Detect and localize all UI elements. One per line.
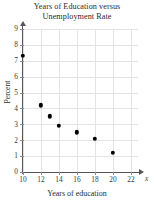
chart-figure: Years of Education versus Unemployment R… [0, 0, 154, 203]
gridline-horizontal [23, 93, 138, 94]
x-axis-tick-label: 16 [69, 176, 85, 183]
x-axis-arrow-icon [139, 169, 144, 175]
y-axis-tick-label: 3 [4, 121, 18, 128]
y-axis-tick-label: 9 [4, 25, 18, 32]
y-axis-tick [20, 61, 24, 62]
y-axis-line [22, 25, 23, 174]
gridline-horizontal [23, 156, 138, 157]
chart-title: Years of Education versus Unemployment R… [0, 2, 154, 22]
gridline-horizontal [23, 140, 138, 141]
y-axis-tick [20, 29, 24, 30]
gridline-vertical [131, 29, 132, 172]
y-axis-tick-label: 0 [4, 168, 18, 175]
gridline-vertical [77, 29, 78, 172]
y-axis-title: Percent [4, 63, 12, 121]
x-axis-tick-label: 14 [51, 176, 67, 183]
gridline-horizontal [23, 29, 138, 30]
plot-area [23, 29, 131, 172]
y-axis-tick-label: 1 [4, 152, 18, 159]
y-axis-tick [20, 108, 24, 109]
y-axis-tick-label: 2 [4, 137, 18, 144]
gridline-horizontal [23, 108, 138, 109]
x-axis-tick-label: 18 [87, 176, 103, 183]
x-axis-title: Years of education [0, 189, 154, 198]
gridline-horizontal [23, 77, 138, 78]
y-axis-tick-label: 8 [4, 41, 18, 48]
gridline-horizontal [23, 61, 138, 62]
y-axis-tick [20, 140, 24, 141]
gridline-vertical [59, 29, 60, 172]
y-axis-tick [20, 124, 24, 125]
x-axis-tick-label: 10 [15, 176, 31, 183]
x-axis-tick-label: 20 [105, 176, 121, 183]
y-axis-tick [20, 93, 24, 94]
gridline-vertical [41, 29, 42, 172]
x-axis-tick-label: 12 [33, 176, 49, 183]
y-axis-tick [20, 45, 24, 46]
gridline-vertical [95, 29, 96, 172]
gridline-horizontal [23, 45, 138, 46]
y-axis-tick [20, 156, 24, 157]
y-axis-arrow-icon [20, 21, 26, 26]
x-axis-tick-label: 22 [123, 176, 139, 183]
y-axis-tick [20, 77, 24, 78]
x-axis-variable-label: x [145, 175, 148, 183]
gridline-horizontal [23, 124, 138, 125]
chart-title-line-1: Years of Education versus [0, 2, 154, 12]
